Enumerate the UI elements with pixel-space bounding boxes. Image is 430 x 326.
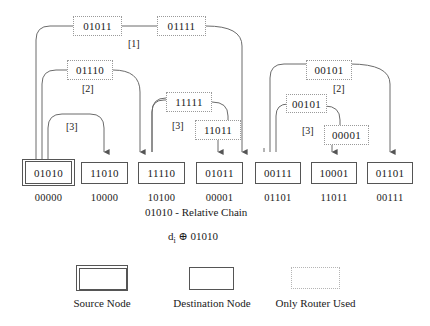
relative-chain-caption: 01010 - Relative Chain	[145, 206, 247, 218]
legend-router-swatch	[291, 267, 340, 289]
xor-formula: di ⊕ 01010	[168, 230, 218, 245]
hop-label-2-left: [2]	[82, 83, 94, 94]
hop-label-2-right: [2]	[333, 83, 345, 94]
router-node-00101-mid[interactable]: 00101	[286, 94, 327, 113]
relative-code-00111: 01101	[255, 192, 301, 203]
legend-label-destination: Destination Node	[160, 297, 264, 309]
router-node-01111-top[interactable]: 01111	[157, 16, 206, 36]
relative-code-11110: 10100	[138, 192, 185, 203]
source-node-inner: 01010	[25, 161, 72, 184]
hop-label-1-left: [1]	[128, 38, 140, 49]
edge-01110-to-11110node	[113, 70, 140, 152]
router-node-00001[interactable]: 00001	[324, 125, 369, 145]
node-label: 01101	[376, 167, 405, 179]
edge-11111-to-11011	[212, 102, 228, 120]
router-label: 01011	[83, 20, 112, 32]
node-label: 11110	[148, 167, 176, 179]
relative-code-01010: 00000	[22, 192, 75, 203]
formula-expression: ⊕ 01010	[176, 230, 218, 242]
destination-node-01101[interactable]: 01101	[367, 162, 413, 184]
hop-label-3-right: [3]	[302, 125, 314, 136]
router-node-11011[interactable]: 11011	[195, 120, 241, 140]
edge-src-to-01110	[42, 70, 67, 159]
node-label: 01010	[34, 167, 63, 179]
router-label: 11111	[175, 96, 202, 108]
router-label: 11011	[204, 124, 232, 136]
edge-11110-riser	[152, 100, 166, 152]
legend-source-swatch	[76, 265, 128, 291]
destination-node-10001[interactable]: 10001	[311, 162, 357, 184]
destination-node-01011[interactable]: 01011	[196, 162, 243, 184]
relative-code-01101: 00111	[367, 192, 413, 203]
relative-code-11010: 10000	[81, 192, 128, 203]
network-routing-diagram: 01011 01111 01110 11111 11011 00101 0010…	[0, 0, 430, 326]
node-label: 00111	[264, 167, 292, 179]
router-node-11111[interactable]: 11111	[166, 92, 212, 112]
destination-node-11110[interactable]: 11110	[138, 162, 185, 184]
legend-destination-swatch	[189, 267, 234, 290]
router-label: 00001	[332, 129, 361, 141]
edge-src-to-01011	[36, 26, 73, 159]
relative-code-01011: 00001	[196, 192, 243, 203]
source-node-01010[interactable]: 01010	[22, 159, 75, 186]
edge-00101mid-to-00001	[325, 106, 340, 125]
node-label: 11010	[90, 167, 119, 179]
destination-node-11010[interactable]: 11010	[81, 162, 128, 184]
destination-node-00111[interactable]: 00111	[255, 162, 301, 184]
legend-label-router: Only Router Used	[263, 297, 368, 309]
router-node-01110[interactable]: 01110	[67, 60, 113, 80]
hop-label-3-mid: [3]	[172, 120, 184, 131]
edge-11110-to-11111	[152, 98, 166, 152]
router-label: 00101	[315, 64, 344, 76]
router-node-01011-top[interactable]: 01011	[73, 16, 122, 36]
node-label: 10001	[320, 167, 349, 179]
router-label: 00101	[292, 98, 321, 110]
legend-label-source: Source Node	[60, 297, 144, 309]
router-node-00101-top[interactable]: 00101	[306, 60, 352, 80]
relative-code-10001: 11011	[311, 192, 357, 203]
router-label: 01111	[168, 20, 196, 32]
hop-label-3-left: [3]	[66, 121, 78, 132]
router-label: 01110	[76, 64, 104, 76]
node-label: 01011	[205, 167, 234, 179]
legend-source-inner	[79, 268, 127, 290]
